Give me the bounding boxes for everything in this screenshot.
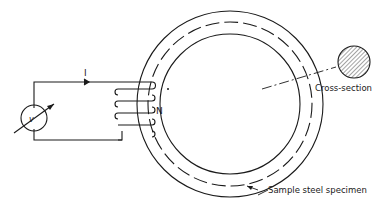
ring-outer-edge <box>137 11 323 197</box>
specimen-label: Sample steel specimen <box>268 185 367 195</box>
voltmeter-arrowhead-icon <box>47 104 54 110</box>
circuit <box>34 79 152 140</box>
current-label: I <box>84 68 87 78</box>
dot-marker <box>167 88 169 90</box>
steel-specimen-ring <box>137 11 323 197</box>
coil-lead-bottom <box>118 131 122 140</box>
turns-label: N <box>156 106 163 116</box>
ring-inner-edge <box>160 34 300 174</box>
toroid-test-diagram: v I N Cross-section Sample steel specime… <box>0 0 385 210</box>
current-arrow-icon <box>84 79 89 85</box>
ring-mean-path <box>148 22 312 186</box>
voltmeter: v <box>14 104 54 133</box>
coil-loop-left <box>115 89 118 119</box>
coil-loop-right <box>152 82 156 137</box>
wire-top <box>34 82 152 108</box>
wire-bottom <box>34 129 122 140</box>
cross-section-hatched-circle <box>338 46 370 78</box>
voltmeter-needle-icon <box>14 104 54 133</box>
voltmeter-label: v <box>29 115 34 124</box>
cross-section-label: Cross-section <box>315 83 372 93</box>
